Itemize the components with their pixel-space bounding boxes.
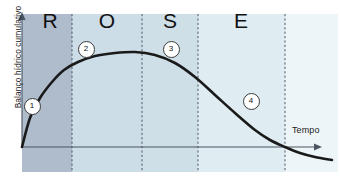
- phase-label-e: E: [234, 10, 248, 31]
- y-axis-label: Balanço hídrico cumulativo: [13, 0, 23, 122]
- phase-band-tail: [285, 14, 338, 172]
- phase-band-o: [72, 14, 142, 172]
- x-axis-label: Tempo: [292, 125, 320, 135]
- phase-label-r: R: [42, 10, 57, 31]
- phase-band-r: [22, 14, 72, 172]
- stage-marker-1: 1: [24, 98, 41, 115]
- stage-marker-4: 4: [243, 93, 260, 110]
- rose-water-balance-chart: Balanço hídrico cumulativo Tempo R O S E…: [0, 0, 340, 179]
- phase-label-s: S: [163, 10, 177, 31]
- stage-marker-2: 2: [78, 41, 95, 58]
- phase-band-s: [142, 14, 198, 172]
- stage-marker-3: 3: [163, 41, 180, 58]
- phase-label-o: O: [99, 10, 115, 31]
